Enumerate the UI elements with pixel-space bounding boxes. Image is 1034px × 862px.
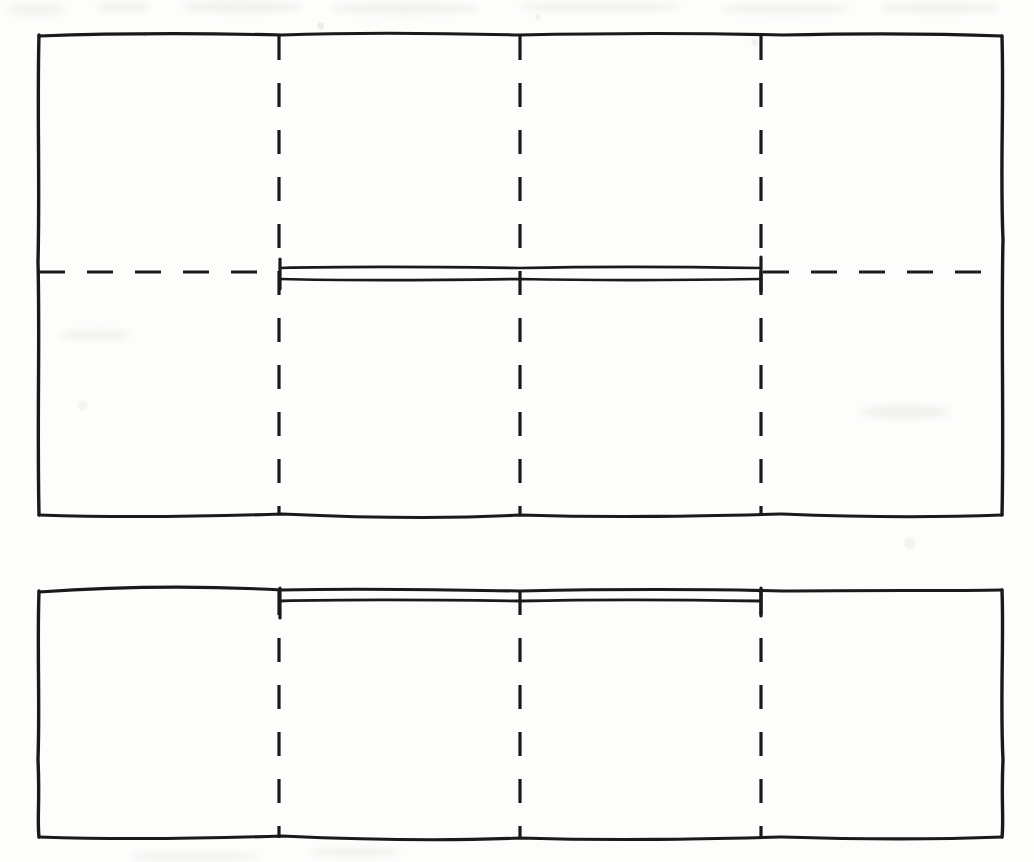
upper-rectangle [38,33,1003,517]
upper-rect-left-edge [38,35,39,515]
lower-rect-right-edge [1002,590,1003,837]
lower-rectangle [38,587,1003,840]
lower-span-bar-stroke [280,600,760,601]
upper-rect-right-edge [1002,36,1003,515]
lower-rect-left-edge [38,591,39,837]
upper-span-bar-lower-stroke [280,279,760,280]
figure-canvas [0,0,1034,862]
upper-span-bar-upper-stroke [280,267,760,268]
figure-page [0,0,1034,862]
upper-rect-top-edge [39,33,1002,36]
